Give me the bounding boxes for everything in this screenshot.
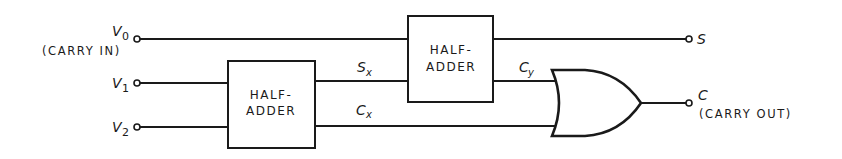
label-v0: V 0 [112, 23, 129, 43]
terminal-v0 [134, 36, 140, 42]
label-sx: S x [357, 59, 372, 78]
svg-text:1: 1 [122, 82, 129, 95]
or-gate-icon [552, 70, 641, 136]
half-adder-1-label-line2: ADDER [246, 104, 296, 118]
half-adder-1-label-line1: HALF- [250, 88, 293, 102]
label-s-output: S [697, 31, 706, 47]
svg-text:x: x [365, 67, 372, 78]
label-carry-out: (CARRY OUT) [699, 107, 792, 121]
terminal-v1 [134, 80, 140, 86]
half-adder-2-label-line2: ADDER [426, 60, 476, 74]
svg-text:0: 0 [122, 30, 129, 43]
svg-text:S: S [357, 59, 366, 75]
label-carry-in: (CARRY IN) [42, 44, 121, 58]
terminal-v2 [134, 124, 140, 130]
full-adder-diagram: HALF- ADDER HALF- ADDER V 0 (CARRY IN) V… [0, 0, 842, 159]
svg-text:y: y [527, 67, 535, 78]
half-adder-2: HALF- ADDER [408, 16, 493, 102]
svg-text:x: x [365, 109, 372, 120]
svg-text:C: C [356, 102, 366, 118]
half-adder-1: HALF- ADDER [228, 61, 315, 148]
label-c-output: C [698, 87, 708, 103]
label-cx: C x [356, 102, 372, 120]
label-v2: V 2 [112, 119, 129, 139]
half-adder-2-box [408, 16, 493, 102]
label-v1: V 1 [112, 75, 129, 95]
terminal-s [686, 36, 692, 42]
terminal-c [686, 100, 692, 106]
label-cy: C y [519, 59, 535, 78]
svg-text:2: 2 [122, 126, 129, 139]
half-adder-2-label-line1: HALF- [430, 43, 473, 57]
